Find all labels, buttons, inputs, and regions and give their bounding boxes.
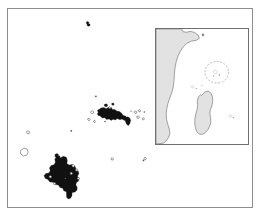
northern-point-marker xyxy=(202,34,205,37)
map-figure xyxy=(0,0,260,216)
locator-inset-canvas xyxy=(156,29,248,144)
western-islet-outline xyxy=(27,131,30,134)
main-map-panel xyxy=(7,8,253,208)
locator-inset-panel xyxy=(155,28,249,145)
